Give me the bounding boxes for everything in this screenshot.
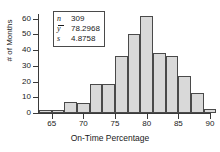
y-tick-mark	[33, 19, 38, 20]
histogram-bar	[204, 109, 217, 113]
y-tick-label: 50	[0, 30, 31, 38]
histogram-bar	[191, 93, 204, 113]
x-axis-line	[38, 113, 211, 114]
histogram-bar	[140, 16, 153, 113]
stats-symbol: y	[57, 24, 71, 34]
histogram-bar	[115, 56, 128, 113]
x-axis-title: On-Time Percentage	[0, 133, 220, 143]
histogram-bar	[52, 110, 65, 113]
stats-value: 78.2968	[71, 24, 100, 34]
x-tick-label: 80	[135, 120, 159, 128]
histogram-bar	[153, 53, 166, 113]
stats-row: s4.8758	[57, 34, 100, 44]
y-tick-mark	[33, 113, 38, 114]
histogram-bar	[39, 110, 52, 113]
y-tick-label: 10	[0, 93, 31, 101]
y-tick-mark	[33, 97, 38, 98]
stats-value: 4.8758	[71, 34, 95, 44]
histogram-bar	[102, 84, 115, 113]
stats-row: y78.2968	[57, 24, 100, 34]
x-tick-label: 75	[103, 120, 127, 128]
y-tick-mark	[33, 34, 38, 35]
y-tick-mark	[33, 82, 38, 83]
y-tick-label: 0	[0, 109, 31, 117]
y-tick-label: 20	[0, 78, 31, 86]
y-tick-mark	[33, 66, 38, 67]
histogram-bar	[128, 34, 141, 113]
y-tick-label: 60	[0, 15, 31, 23]
histogram-bar	[64, 102, 77, 113]
x-tick-label: 85	[166, 120, 190, 128]
x-tick-label: 70	[71, 120, 95, 128]
overline-mark	[58, 25, 64, 26]
histogram-bar	[166, 56, 179, 113]
histogram-chart: # of Months 0102030405060 657075808590 O…	[0, 0, 220, 152]
histogram-bar	[90, 84, 103, 113]
y-tick-label: 40	[0, 46, 31, 54]
stats-symbol: n	[57, 14, 71, 24]
stats-row: n309	[57, 14, 100, 24]
histogram-bar	[178, 76, 191, 113]
y-tick-mark	[33, 50, 38, 51]
stats-symbol: s	[57, 34, 71, 44]
y-tick-label: 30	[0, 62, 31, 70]
x-tick-label: 65	[40, 120, 64, 128]
stats-legend-box: n309y78.2968s4.8758	[53, 11, 105, 47]
x-tick-label: 90	[198, 120, 220, 128]
histogram-bar	[77, 103, 90, 113]
stats-value: 309	[71, 14, 84, 24]
